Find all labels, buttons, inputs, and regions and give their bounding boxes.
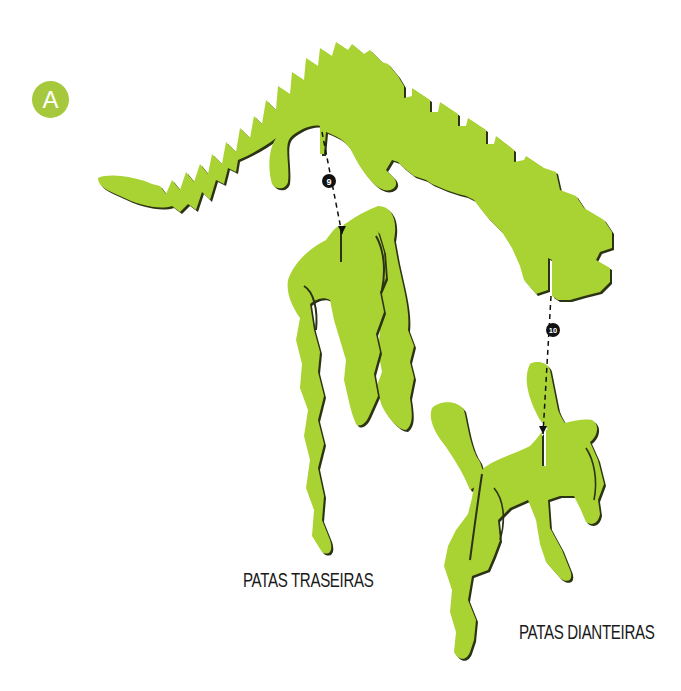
assembly-diagram: 9 10 A PATAS TRASEIRAS PATAS DIANTEIRAS xyxy=(0,0,681,691)
label-front-legs: PATAS DIANTEIRAS xyxy=(519,620,654,644)
arrowhead-icon xyxy=(539,426,547,434)
step-badge: A xyxy=(32,81,69,118)
hind-legs-piece xyxy=(288,206,416,556)
label-hind-legs: PATAS TRASEIRAS xyxy=(243,568,373,592)
connector-number-9: 9 xyxy=(326,177,331,187)
step-letter: A xyxy=(42,88,58,112)
front-legs-piece xyxy=(431,362,606,661)
connector-number-10: 10 xyxy=(549,326,557,335)
